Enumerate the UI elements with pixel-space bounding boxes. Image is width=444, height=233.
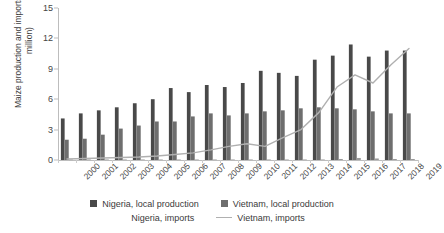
y-axis-title: Maize production and imports (tons, mill… — [13, 0, 34, 116]
x-tick-label: 2002 — [118, 161, 138, 181]
bar — [123, 159, 127, 160]
bar — [335, 108, 339, 160]
y-tick-label: 6 — [48, 94, 53, 104]
bar — [155, 121, 159, 160]
legend-item-vietnam-local-production[interactable]: Vietnam, local production — [221, 199, 334, 209]
bar — [87, 159, 91, 160]
legend-item-vietnam-imports[interactable]: Vietnam, imports — [216, 213, 304, 223]
bar — [367, 57, 371, 160]
bar — [339, 159, 343, 160]
bar — [321, 159, 325, 160]
bar — [61, 118, 65, 160]
x-tick-label: 2000 — [82, 161, 102, 181]
bar — [65, 140, 69, 160]
bar — [169, 88, 173, 160]
legend-swatch-square — [221, 200, 228, 207]
legend-row-secondary: Nigeria, imports Vietnam, imports — [0, 210, 424, 225]
bar — [223, 87, 227, 160]
x-tick-label: 2005 — [172, 161, 192, 181]
bar — [209, 113, 213, 160]
bar — [231, 159, 235, 160]
bar — [213, 159, 217, 160]
legend-label: Vietnam, local production — [233, 199, 334, 209]
bar — [403, 51, 407, 160]
bar — [407, 113, 411, 160]
bar — [299, 108, 303, 160]
x-axis-labels: 2000200120022003200420052006200720082009… — [58, 161, 418, 195]
bar — [331, 56, 335, 160]
x-tick-label: 2001 — [100, 161, 120, 181]
bar — [393, 159, 397, 160]
bar — [389, 113, 393, 160]
bar — [259, 71, 263, 160]
bar — [411, 159, 415, 160]
bar — [349, 44, 353, 160]
x-tick-label: 2016 — [370, 161, 390, 181]
bar — [285, 159, 289, 160]
bar — [249, 159, 253, 160]
bar — [115, 107, 119, 160]
bar — [241, 83, 245, 160]
x-tick-label: 2018 — [406, 161, 426, 181]
bar — [151, 99, 155, 160]
bar — [313, 60, 317, 160]
x-tick-label: 2011 — [279, 161, 299, 181]
x-tick-label: 2017 — [388, 161, 408, 181]
bar — [371, 111, 375, 160]
x-tick-label: 2004 — [154, 161, 174, 181]
bar — [303, 159, 307, 160]
bar — [281, 110, 285, 160]
bar — [205, 85, 209, 160]
x-tick-label: 2009 — [244, 161, 264, 181]
bar — [357, 158, 361, 160]
bar — [317, 107, 321, 160]
legend-item-nigeria-local-production[interactable]: Nigeria, local production — [90, 199, 199, 209]
legend-item-nigeria-imports[interactable]: Nigeria, imports — [119, 213, 194, 223]
legend-swatch-square — [119, 214, 126, 221]
bar — [295, 76, 299, 160]
bar — [133, 103, 137, 160]
x-tick-label: 2012 — [298, 161, 318, 181]
y-tick-label: 12 — [43, 33, 53, 43]
legend-label: Vietnam, imports — [237, 213, 304, 223]
bar — [159, 159, 163, 160]
bar — [195, 159, 199, 160]
y-tick-label: 3 — [48, 125, 53, 135]
bar — [101, 135, 105, 160]
bar — [97, 110, 101, 160]
legend-swatch-square — [90, 200, 97, 207]
y-tick-label: 15 — [43, 3, 53, 13]
bar — [105, 159, 109, 160]
bar — [83, 139, 87, 160]
legend-row-primary: Nigeria, local production Vietnam, local… — [0, 196, 424, 211]
bar — [119, 129, 123, 160]
bar — [137, 126, 141, 160]
legend-label: Nigeria, local production — [102, 199, 199, 209]
bar — [277, 73, 281, 160]
bar — [245, 113, 249, 160]
y-tick-label: 0 — [48, 155, 53, 165]
x-tick-label: 2019 — [424, 161, 444, 181]
x-tick-label: 2008 — [226, 161, 246, 181]
bar — [375, 158, 379, 160]
x-tick-label: 2003 — [136, 161, 156, 181]
plot-area: 03691215 — [58, 8, 418, 160]
chart-series-canvas — [58, 8, 418, 160]
bar — [227, 115, 231, 160]
x-tick-label: 2013 — [316, 161, 336, 181]
chart-legend: Nigeria, local production Vietnam, local… — [0, 196, 424, 230]
bar — [79, 113, 83, 160]
bar — [141, 159, 145, 160]
x-tick-label: 2015 — [352, 161, 372, 181]
x-tick-label: 2006 — [190, 161, 210, 181]
legend-swatch-line — [216, 217, 232, 219]
bar — [187, 92, 191, 160]
y-tick-label: 9 — [48, 64, 53, 74]
x-tick-label: 2010 — [262, 161, 282, 181]
bar — [263, 111, 267, 160]
legend-label: Nigeria, imports — [131, 213, 194, 223]
bar — [267, 159, 271, 160]
bar — [353, 109, 357, 160]
bar — [177, 159, 181, 160]
